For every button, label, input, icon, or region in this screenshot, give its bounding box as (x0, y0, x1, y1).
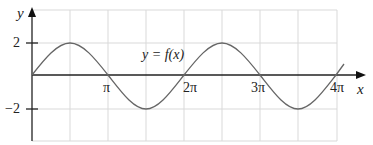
curve-f (32, 43, 344, 109)
y-axis-arrow-icon (28, 7, 36, 17)
tick-label-neg2: −2 (5, 102, 20, 116)
x-axis-label: x (357, 82, 364, 97)
x-axis-arrow-icon (356, 71, 366, 79)
tick-label-pi: π (103, 81, 110, 95)
tick-label-2pi: 2π (183, 81, 197, 95)
y-axis-label: y (17, 6, 24, 21)
axes (26, 12, 360, 141)
tick-label-3pi: 3π (251, 81, 265, 95)
curve-label: y = f(x) (142, 48, 184, 62)
tick-label-4pi: 4π (330, 81, 344, 95)
chart-canvas (0, 0, 373, 145)
tick-label-2: 2 (13, 36, 20, 50)
